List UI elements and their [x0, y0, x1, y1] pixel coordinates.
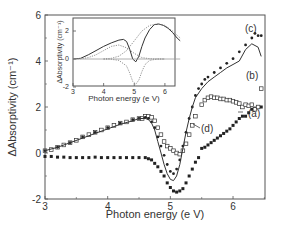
series-b-marker [153, 119, 157, 123]
series-a-marker [169, 186, 172, 189]
chart-svg: 3456-20246 Photon energy (e V) ΔAbsorpti… [0, 0, 282, 226]
series-a-marker [238, 117, 241, 120]
series-a-marker [188, 175, 191, 178]
series-a-marker [216, 137, 219, 140]
series-a-marker [131, 156, 134, 159]
series-a-marker [138, 156, 141, 159]
series-a-marker [125, 156, 128, 159]
series-c-marker [203, 78, 206, 81]
series-a-marker [191, 168, 194, 171]
series-a-marker [81, 156, 84, 159]
series-a-marker [232, 124, 235, 127]
main-y-axis-label: ΔAbsorptivity (cm⁻¹) [6, 58, 18, 157]
series-a-marker [166, 181, 169, 184]
series-c-marker [213, 71, 216, 74]
series-a-marker [197, 156, 200, 159]
x-tick-label: 3 [42, 201, 48, 212]
series-a-marker [181, 187, 184, 190]
y-tick-label: 2 [65, 27, 69, 34]
series-a-marker [156, 165, 159, 168]
series-a-marker [75, 156, 78, 159]
series-a-marker [203, 146, 206, 149]
y-tick-label: -2 [63, 83, 69, 90]
series-a-marker [69, 156, 72, 159]
series-b-marker [238, 102, 242, 106]
y-tick-label: 2 [35, 102, 41, 113]
series-b-marker [178, 152, 182, 156]
series-b-marker [162, 140, 166, 144]
series-c-marker [172, 172, 175, 175]
series-a-marker [87, 156, 90, 159]
series-b-marker [259, 87, 263, 91]
series-a-marker [56, 156, 59, 159]
series-b-marker [156, 126, 160, 130]
series-c-marker [166, 163, 169, 166]
series-c-marker [200, 83, 203, 86]
series-b-marker [200, 103, 204, 107]
inset-x-axis-label: Photon energy (e V) [88, 94, 160, 103]
label-b: (b) [246, 70, 258, 81]
series-a-marker [200, 147, 203, 150]
series-a-marker [147, 157, 150, 160]
series-c-marker [175, 168, 178, 171]
series-a-marker [219, 134, 222, 137]
y-tick-label: 0 [35, 148, 41, 159]
series-a-marker [175, 191, 178, 194]
series-a-marker [178, 189, 181, 192]
series-c-marker [160, 145, 163, 148]
label-a: (a) [248, 108, 260, 119]
main-x-axis-label: Photon energy (e V) [106, 208, 204, 220]
series-b-marker [194, 114, 198, 118]
series-c-marker [238, 50, 241, 53]
series-a-marker [119, 156, 122, 159]
series-a-marker [159, 170, 162, 173]
series-a-marker [163, 175, 166, 178]
series-b-marker [250, 103, 254, 107]
series-a-marker [185, 181, 188, 184]
series-a-marker [62, 156, 65, 159]
series-c-marker [260, 34, 263, 37]
series-a-marker [241, 115, 244, 118]
y-tick-label: -2 [32, 194, 41, 205]
series-c-marker [197, 87, 200, 90]
series-c-marker [163, 154, 166, 157]
inset-y-axis-label: ΔAbsorptivity (cm⁻¹) [56, 20, 64, 83]
series-c-marker [169, 170, 172, 173]
series-c-marker [219, 67, 222, 70]
series-a-marker [244, 115, 247, 118]
series-a-marker [235, 120, 238, 123]
series-a-marker [172, 189, 175, 192]
series-a-marker [194, 161, 197, 164]
series-a-marker [112, 156, 115, 159]
series-c-marker [257, 34, 260, 37]
y-tick-label: 4 [35, 56, 41, 67]
series-a-marker [228, 127, 231, 130]
x-tick-label: 6 [230, 201, 236, 212]
series-a-marker [94, 156, 97, 159]
label-c: (c) [245, 23, 257, 34]
absorptivity-chart: 3456-20246 Photon energy (e V) ΔAbsorpti… [0, 0, 282, 226]
series-c-marker [207, 76, 210, 79]
series-b-marker [150, 116, 154, 120]
x-tick-label: 6 [163, 88, 167, 95]
series-c-marker [232, 57, 235, 60]
label-d: (d) [201, 123, 213, 134]
series-a-marker [44, 155, 47, 158]
series-c-marker [225, 62, 228, 65]
series-a-marker [100, 156, 103, 159]
inset-plot: 3456-202 Photon energy (e V) ΔAbsorptivi… [56, 18, 180, 103]
y-tick-label: 6 [35, 10, 41, 21]
series-c-marker [250, 37, 253, 40]
series-a-marker [222, 132, 225, 135]
y-tick-label: 0 [65, 55, 69, 62]
series-a-marker [106, 156, 109, 159]
series-a-marker [150, 158, 153, 161]
series-b-marker [159, 133, 163, 137]
series-b-marker [187, 133, 191, 137]
series-a-marker [213, 139, 216, 142]
series-a-marker [50, 155, 53, 158]
series-c-marker [244, 44, 247, 47]
series-a-marker [225, 130, 228, 133]
series-a-marker [144, 156, 147, 159]
series-a-marker [210, 141, 213, 144]
